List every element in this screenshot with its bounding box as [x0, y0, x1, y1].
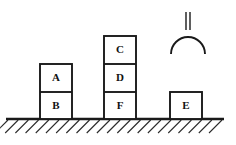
- ground-hatch-line: [209, 120, 222, 133]
- block-label-f: F: [117, 99, 124, 111]
- ground-hatch-line: [26, 120, 39, 133]
- block-label-d: D: [116, 71, 124, 83]
- ground-hatch-line: [127, 120, 140, 133]
- ground-hatch-line: [199, 120, 212, 133]
- ground-hatch-line: [5, 120, 18, 133]
- blocks-world-diagram: ABCDFE: [0, 0, 236, 145]
- block-label-a: A: [52, 71, 60, 83]
- gripper-claw-arc: [171, 37, 205, 54]
- diagram-canvas: ABCDFE: [0, 0, 236, 145]
- stack-right: E: [170, 92, 202, 119]
- ground-hatch-line: [158, 120, 171, 133]
- block-label-c: C: [116, 43, 124, 55]
- stack-middle: CDF: [104, 36, 136, 119]
- ground-hatch-line: [97, 120, 110, 133]
- ground-hatch-line: [56, 120, 69, 133]
- ground-hatch-line: [77, 120, 90, 133]
- robot-gripper[interactable]: [171, 12, 205, 54]
- ground-hatch-line: [148, 120, 161, 133]
- ground-hatch-line: [138, 120, 151, 133]
- ground-hatch-line: [66, 120, 79, 133]
- ground-hatch-line: [15, 120, 28, 133]
- ground-hatch-line: [46, 120, 59, 133]
- ground-hatch-line: [168, 120, 181, 133]
- ground-hatch-line: [178, 120, 191, 133]
- stack-left: AB: [40, 64, 72, 119]
- ground-hatch-line: [87, 120, 100, 133]
- ground-hatching-group: [0, 120, 222, 133]
- block-label-e: E: [182, 99, 189, 111]
- ground-hatch-line: [107, 120, 120, 133]
- block-label-b: B: [52, 99, 60, 111]
- ground-hatch-line: [189, 120, 202, 133]
- ground-hatch-line: [117, 120, 130, 133]
- ground-hatch-line: [36, 120, 49, 133]
